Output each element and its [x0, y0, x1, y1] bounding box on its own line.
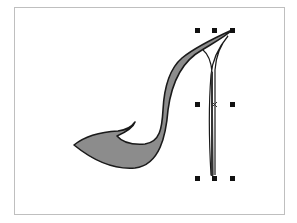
shoe-drawing: [0, 0, 297, 223]
handle-bottom-center[interactable]: [212, 176, 217, 181]
handle-middle-left[interactable]: [195, 102, 200, 107]
handle-top-left[interactable]: [195, 28, 200, 33]
handle-bottom-right[interactable]: [230, 176, 235, 181]
shoe-body-shape[interactable]: [74, 30, 232, 168]
handle-top-center[interactable]: [212, 28, 217, 33]
handle-middle-right[interactable]: [230, 102, 235, 107]
handle-top-right[interactable]: [230, 28, 235, 33]
drawing-canvas: [0, 0, 297, 223]
handle-bottom-left[interactable]: [195, 176, 200, 181]
